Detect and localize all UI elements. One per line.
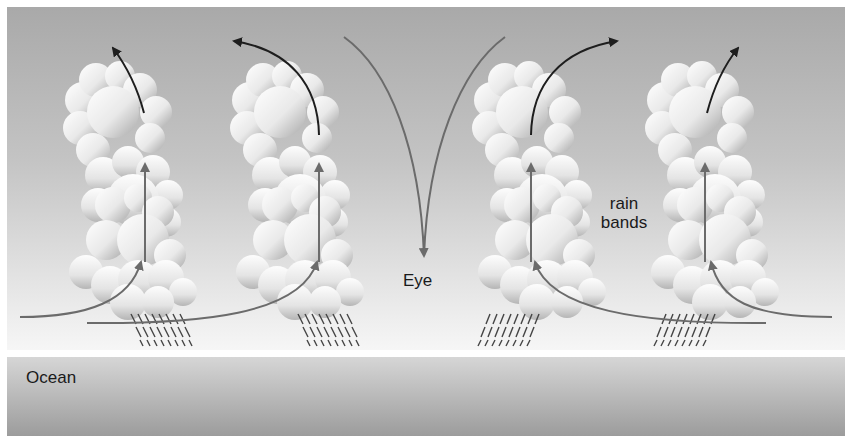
ocean-label: Ocean [26,368,76,387]
ocean-band [7,357,845,436]
rain-bands-label-line1: rain [596,194,652,213]
rain-bands-label: rain bands [596,194,652,232]
eye-label: Eye [403,271,432,290]
hurricane-diagram [0,0,852,447]
rain-bands-label-line2: bands [596,213,652,232]
